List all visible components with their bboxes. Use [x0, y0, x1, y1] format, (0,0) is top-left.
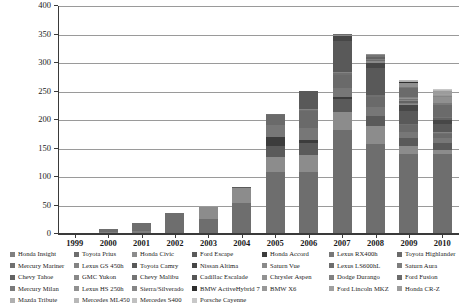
legend-item[interactable]: Lexus GS 450h [74, 261, 132, 271]
legend-swatch-icon [262, 286, 267, 291]
bar-segment[interactable] [399, 154, 418, 234]
bar-segment[interactable] [299, 143, 318, 154]
legend-swatch-icon [262, 275, 267, 280]
stacked-bar[interactable] [232, 187, 251, 234]
bar-segment[interactable] [399, 146, 418, 155]
y-axis-line [58, 6, 59, 234]
bar-segment[interactable] [333, 99, 352, 111]
legend-swatch-icon [329, 263, 334, 268]
legend-item[interactable]: Chevy Tahoe [10, 272, 74, 282]
legend-item[interactable]: Mercedes ML450 [74, 295, 132, 305]
bar-segment[interactable] [266, 137, 285, 147]
legend-item[interactable]: Lexus RX400h [329, 249, 397, 259]
legend-item[interactable]: Ford Fusion [397, 272, 463, 282]
legend-item[interactable]: Honda Insight [10, 249, 74, 259]
legend-swatch-icon [132, 275, 137, 280]
legend-item[interactable]: Ford Escape [192, 249, 262, 259]
chart-legend: Honda InsightMercury MarinerChevy TahoeM… [10, 249, 465, 305]
bar-segment[interactable] [399, 88, 418, 97]
bar-segment[interactable] [199, 219, 218, 233]
legend-item[interactable]: Saturn Vue [262, 261, 329, 271]
bar-segment[interactable] [299, 128, 318, 140]
legend-swatch-icon [192, 263, 197, 268]
bar-segment[interactable] [333, 41, 352, 72]
x-tick-label: 2000 [91, 236, 124, 250]
legend-item[interactable]: Nissan Altima [192, 261, 262, 271]
bar-segment[interactable] [433, 154, 452, 234]
legend-item[interactable]: BMW X6 [262, 284, 329, 294]
stacked-bar[interactable] [299, 91, 318, 234]
legend-item[interactable]: Chevy Malibu [132, 272, 192, 282]
bar-segment[interactable] [299, 172, 318, 233]
legend-item[interactable]: Honda Accord [262, 249, 329, 259]
bar-segment[interactable] [266, 172, 285, 234]
legend-item[interactable]: Honda Civic [132, 249, 192, 259]
bar-slot [225, 6, 258, 234]
bar-segment[interactable] [132, 223, 151, 232]
legend-item[interactable]: Porsche Cayenne [192, 295, 262, 305]
y-tick-label: 100 [38, 171, 51, 181]
bar-segment[interactable] [366, 68, 385, 94]
stacked-bar[interactable] [399, 80, 418, 234]
stacked-bar[interactable] [199, 207, 218, 234]
legend-swatch-icon [397, 275, 402, 280]
bar-segment[interactable] [299, 91, 318, 109]
legend-swatch-icon [192, 298, 197, 303]
bar-slot [426, 6, 459, 234]
stacked-bar[interactable] [165, 213, 184, 234]
bar-segment[interactable] [232, 203, 251, 234]
bar-segment[interactable] [366, 116, 385, 126]
bar-segment[interactable] [266, 157, 285, 172]
legend-label: Mazda Tribute [18, 295, 57, 305]
bar-segment[interactable] [299, 155, 318, 173]
legend-label: Honda CR-Z [405, 284, 440, 294]
bar-segment[interactable] [366, 126, 385, 144]
legend-item[interactable]: Dodge Durango [329, 272, 397, 282]
bar-segment[interactable] [266, 125, 285, 137]
bar-segment[interactable] [433, 105, 452, 117]
legend-item[interactable]: GMC Yukon [74, 272, 132, 282]
legend-item[interactable]: Toyota Camry [132, 261, 192, 271]
bar-segment[interactable] [165, 213, 184, 232]
bar-segment[interactable] [333, 75, 352, 88]
legend-item[interactable]: Mercedes S400 [132, 295, 192, 305]
bar-segment[interactable] [433, 124, 452, 132]
legend-item[interactable]: Mercury Milan [10, 284, 74, 294]
bar-segment[interactable] [199, 207, 218, 219]
bar-segment[interactable] [333, 112, 352, 131]
legend-item[interactable]: Lexus HS 250h [74, 284, 132, 294]
bar-segment[interactable] [299, 111, 318, 129]
bar-segment[interactable] [399, 111, 418, 124]
legend-item[interactable]: Sierra/Silverado [132, 284, 192, 294]
legend-item[interactable]: Mazda Tribute [10, 295, 74, 305]
legend-item[interactable]: Saturn Aura [397, 261, 463, 271]
legend-item[interactable]: Toyota Highlander [397, 249, 463, 259]
legend-item[interactable]: Lexus LS600hL [329, 261, 397, 271]
legend-label: Saturn Aura [405, 261, 437, 271]
stacked-bar[interactable] [266, 114, 285, 234]
legend-item[interactable]: Chrysler Aspen [262, 272, 329, 282]
bar-segment[interactable] [366, 144, 385, 234]
bar-segment[interactable] [399, 138, 418, 146]
legend-label: Mercedes ML450 [82, 295, 130, 305]
legend-item[interactable]: BMW ActiveHybrid 7 [192, 284, 262, 294]
x-tick-label: 2003 [192, 236, 225, 250]
bar-segment[interactable] [366, 97, 385, 108]
bar-segment[interactable] [333, 130, 352, 233]
legend-item[interactable]: Cadillac Escalade [192, 272, 262, 282]
legend-item[interactable]: Mercury Mariner [10, 261, 74, 271]
legend-item[interactable]: Honda CR-Z [397, 284, 463, 294]
bar-segment[interactable] [266, 146, 285, 157]
stacked-bar[interactable] [366, 54, 385, 234]
stacked-bar[interactable] [433, 89, 452, 234]
bar-segment[interactable] [366, 107, 385, 116]
x-tick-label: 2007 [325, 236, 358, 250]
bar-segment[interactable] [333, 88, 352, 98]
bar-slot [125, 6, 158, 234]
legend-item[interactable]: Toyota Prius [74, 249, 132, 259]
legend-item[interactable]: Ford Lincoln MKZ [329, 284, 397, 294]
stacked-bar[interactable] [333, 34, 352, 234]
bar-segment[interactable] [266, 115, 285, 125]
legend-swatch-icon [74, 286, 79, 291]
bar-segment[interactable] [232, 188, 251, 203]
